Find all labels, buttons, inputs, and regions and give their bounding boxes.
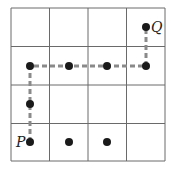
point [103,62,111,70]
point [142,62,150,70]
point [26,62,34,70]
point [103,138,111,146]
point [26,100,34,108]
point [65,138,73,146]
point-Q [142,23,150,31]
point [65,62,73,70]
grid-diagram: P Q [0,0,171,175]
point-P [26,138,34,146]
label-P: P [15,134,26,150]
label-Q: Q [151,19,163,35]
grid [11,8,165,161]
